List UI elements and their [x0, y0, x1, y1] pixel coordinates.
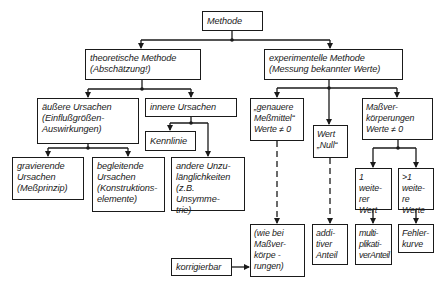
node-serious-causes: gravierende Ursachen (Meßprinzip)	[12, 157, 84, 200]
node-theoretical-method: theoretische Methode (Abschätzung!)	[85, 49, 201, 80]
node-characteristic-curve: Kennlinie	[145, 131, 196, 151]
node-as-standards: (wie bei Maßver- körpe - rungen)	[250, 224, 305, 277]
node-accurate-instruments: „genauere Meßmittel“ Werte ≠ 0	[250, 98, 304, 141]
node-accompanying-causes: begleitende Ursachen (Konstruktions- ele…	[92, 157, 165, 212]
node-experimental-method: experimentelle Methode (Messung bekannte…	[264, 49, 403, 80]
node-value-zero: Wert „Null“	[313, 125, 348, 158]
node-multiplicative-part: multi- plikati- verAnteil	[355, 224, 392, 265]
node-additive-part: addi- tiver Anteil	[312, 224, 348, 265]
node-more-values: >1 weite- re Werte	[398, 168, 434, 210]
node-correctable: korrigierbar	[171, 258, 232, 276]
node-measurement-standards: Maßver- körperungen Werte ≠ 0	[362, 98, 433, 140]
node-one-more-value: 1 weite- rer Wert	[355, 168, 392, 210]
node-internal-causes: innere Ursachen	[145, 98, 237, 117]
node-methode: Methode	[202, 11, 263, 31]
node-error-curve: Fehler- kurve	[398, 224, 434, 253]
node-other-deficiencies: andere Unzu- länglichkeiten (z.B. Unsymm…	[171, 157, 245, 211]
node-external-causes: äußere Ursachen (Einflußgrößen- Auswirku…	[37, 98, 139, 144]
